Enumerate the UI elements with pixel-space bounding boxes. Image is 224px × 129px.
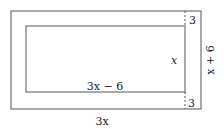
outer-height-label: x + 6 (204, 45, 217, 74)
inner-width-label: 3x − 6 (87, 80, 123, 93)
bottom-gap-label: 3 (188, 97, 195, 110)
top-gap-label: 3 (189, 14, 196, 27)
frame-diagram: 3 3 x 3x − 6 3x x + 6 (0, 0, 224, 129)
outer-width-label: 3x (95, 115, 109, 128)
inner-height-label: x (171, 54, 178, 67)
